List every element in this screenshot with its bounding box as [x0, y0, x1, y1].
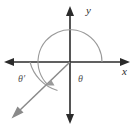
theta-label: θ	[78, 73, 83, 84]
y-axis-bottom-arrowhead	[66, 114, 74, 124]
angle-diagram-figure: y x θ′ θ	[0, 0, 137, 129]
x-axis-left-arrowhead	[4, 58, 14, 66]
coordinate-plane-svg: y x θ′ θ	[0, 0, 137, 129]
terminal-side-ray-line	[19, 62, 70, 111]
terminal-side-ray	[12, 62, 71, 119]
y-axis-top-arrowhead	[66, 6, 74, 16]
theta-prime-label: θ′	[18, 73, 26, 84]
y-axis-label: y	[85, 4, 91, 16]
x-axis-label: x	[121, 65, 127, 77]
